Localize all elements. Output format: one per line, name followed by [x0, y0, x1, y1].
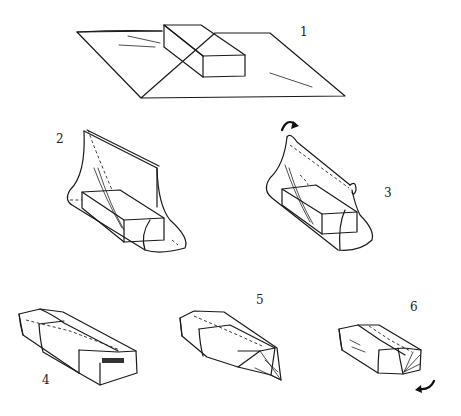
step-3-illustration [266, 135, 372, 250]
curved-arrow-icon [415, 381, 434, 393]
step-4-illustration [19, 309, 137, 385]
step-6-illustration [339, 325, 421, 374]
wrapping-diagram: 1 2 3 [0, 0, 461, 416]
step-label-3: 3 [384, 186, 392, 200]
step-label-2: 2 [56, 132, 64, 146]
curved-arrow-icon [282, 121, 299, 130]
step-label-1: 1 [300, 25, 308, 39]
step-label-4: 4 [42, 373, 50, 387]
tape-icon [102, 358, 124, 363]
step-5-illustration [180, 311, 281, 380]
step-label-5: 5 [256, 293, 264, 307]
step-label-6: 6 [410, 300, 418, 314]
step-2-illustration [67, 130, 186, 252]
